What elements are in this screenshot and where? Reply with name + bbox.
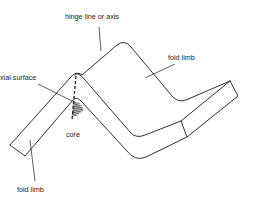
fold-bottom-edge — [10, 98, 187, 158]
axial-surface-label: xial surface — [0, 73, 36, 82]
fold-front-edge — [75, 74, 230, 137]
fold-limb-top-leader-line — [145, 64, 175, 78]
hinge-label: hinge line or axis — [65, 12, 119, 21]
fold-diagram: hinge line or axis fold limb xial surfac… — [0, 0, 253, 207]
fold-limb-top-label: fold limb — [168, 53, 195, 62]
hinge-leader-line — [99, 27, 101, 51]
core-label: core — [66, 130, 80, 139]
fold-limb-bottom-label: fold limb — [17, 185, 44, 194]
axial-surface-leader-line — [38, 84, 72, 101]
fold-limb-bottom-leader-line — [30, 140, 35, 181]
fold-upper-outline — [10, 42, 230, 145]
